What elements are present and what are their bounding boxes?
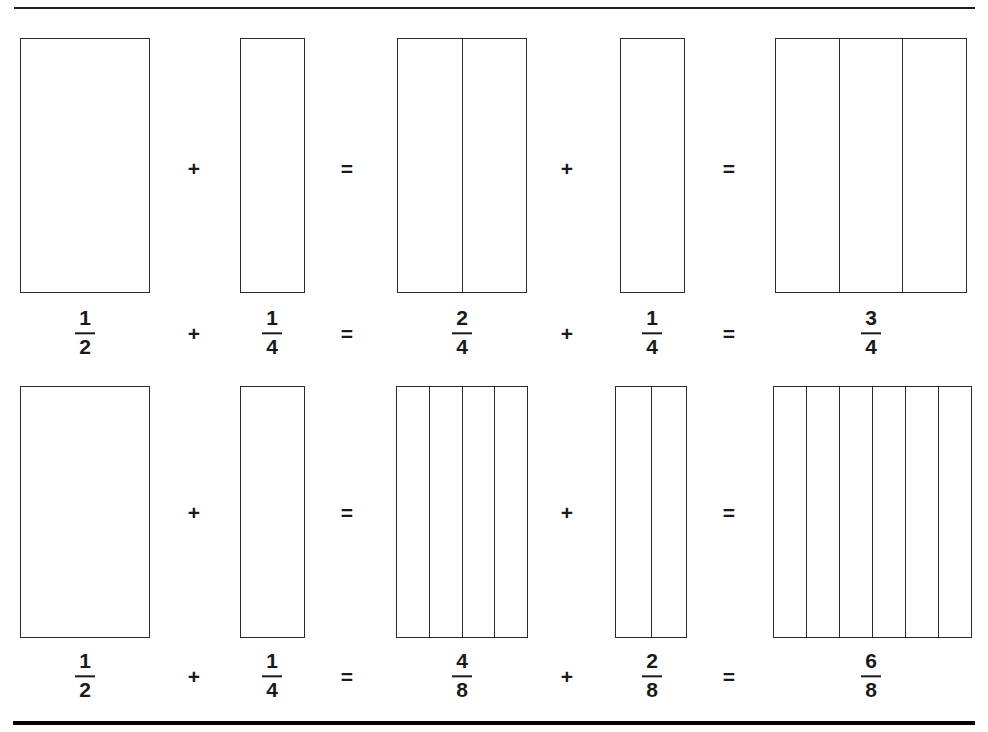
fraction-numerator: 1 [264, 650, 280, 674]
fraction-numerator: 1 [264, 307, 280, 331]
top-divider-rule [14, 7, 975, 9]
fraction-bar-3-4 [775, 38, 967, 293]
fraction-bar-1-4 [240, 386, 305, 638]
fraction-denominator: 4 [264, 678, 280, 702]
fraction-vinculum [262, 675, 282, 677]
fraction-label-3-4: 3 4 [861, 307, 881, 358]
fraction-numerator: 1 [77, 650, 93, 674]
fraction-label-1-4: 1 4 [262, 650, 282, 701]
fraction-vinculum [861, 675, 881, 677]
fraction-vinculum [861, 332, 881, 334]
fraction-bar-part [241, 387, 304, 637]
fraction-vinculum [75, 332, 95, 334]
fraction-bar-part [430, 387, 463, 637]
fraction-numerator: 4 [454, 650, 470, 674]
fraction-vinculum [262, 332, 282, 334]
operator-equals: = [714, 502, 744, 523]
operator-equals: = [332, 158, 362, 179]
label-operator-plus: + [552, 323, 582, 344]
fraction-bar-2-4 [397, 38, 527, 293]
label-operator-equals: = [714, 323, 744, 344]
fraction-denominator: 4 [454, 335, 470, 359]
fraction-bar-part [774, 387, 807, 637]
fraction-numerator: 1 [644, 307, 660, 331]
fraction-bar-4-8 [396, 386, 528, 638]
label-operator-plus: + [179, 323, 209, 344]
fraction-bar-part [398, 39, 463, 292]
fraction-label-2-8: 2 8 [642, 650, 662, 701]
fraction-bar-part [21, 39, 149, 292]
fraction-bar-part [807, 387, 840, 637]
fraction-bar-part [616, 387, 652, 637]
fraction-vinculum [452, 675, 472, 677]
fraction-vinculum [642, 675, 662, 677]
fraction-denominator: 4 [863, 335, 879, 359]
operator-equals: = [332, 502, 362, 523]
fraction-bar-part [873, 387, 906, 637]
fraction-bar-part [621, 39, 684, 292]
fraction-denominator: 2 [77, 678, 93, 702]
fraction-bar-part [840, 387, 873, 637]
fraction-bar-1-4 [620, 38, 685, 293]
fraction-label-6-8: 6 8 [861, 650, 881, 701]
fraction-numerator: 1 [77, 307, 93, 331]
fraction-label-1-2: 1 2 [75, 307, 95, 358]
fraction-bar-part [463, 39, 527, 292]
fraction-numerator: 6 [863, 650, 879, 674]
fraction-bar-part [903, 39, 966, 292]
fraction-bar-part [463, 387, 496, 637]
operator-plus: + [179, 158, 209, 179]
fraction-vinculum [642, 332, 662, 334]
fraction-diagram-page: + = + = 1 2 + 1 4 = 2 4 + 1 4 = [0, 0, 988, 732]
bottom-divider-rule [13, 721, 975, 725]
fraction-denominator: 2 [77, 335, 93, 359]
fraction-bar-part [21, 387, 149, 637]
label-operator-equals: = [714, 666, 744, 687]
fraction-denominator: 8 [863, 678, 879, 702]
fraction-bar-6-8 [773, 386, 972, 638]
fraction-bar-part [241, 39, 304, 292]
label-operator-equals: = [332, 323, 362, 344]
operator-plus: + [179, 502, 209, 523]
fraction-bar-2-8 [615, 386, 687, 638]
fraction-bar-part [939, 387, 971, 637]
fraction-label-2-4: 2 4 [452, 307, 472, 358]
fraction-bar-part [906, 387, 939, 637]
fraction-label-4-8: 4 8 [452, 650, 472, 701]
fraction-bar-part [776, 39, 840, 292]
label-operator-equals: = [332, 666, 362, 687]
fraction-numerator: 2 [454, 307, 470, 331]
label-operator-plus: + [179, 666, 209, 687]
label-operator-plus: + [552, 666, 582, 687]
fraction-label-1-4: 1 4 [642, 307, 662, 358]
fraction-bar-1-4 [240, 38, 305, 293]
fraction-label-1-2: 1 2 [75, 650, 95, 701]
fraction-numerator: 2 [644, 650, 660, 674]
fraction-denominator: 8 [454, 678, 470, 702]
fraction-label-1-4: 1 4 [262, 307, 282, 358]
fraction-denominator: 4 [644, 335, 660, 359]
fraction-denominator: 8 [644, 678, 660, 702]
fraction-bar-part [652, 387, 687, 637]
fraction-bar-part [397, 387, 430, 637]
fraction-numerator: 3 [863, 307, 879, 331]
operator-plus: + [552, 158, 582, 179]
fraction-vinculum [452, 332, 472, 334]
fraction-denominator: 4 [264, 335, 280, 359]
fraction-vinculum [75, 675, 95, 677]
operator-equals: = [714, 158, 744, 179]
fraction-bar-part [495, 387, 527, 637]
fraction-bar-part [840, 39, 904, 292]
fraction-bar-1-2 [20, 38, 150, 293]
operator-plus: + [552, 502, 582, 523]
fraction-bar-1-2 [20, 386, 150, 638]
